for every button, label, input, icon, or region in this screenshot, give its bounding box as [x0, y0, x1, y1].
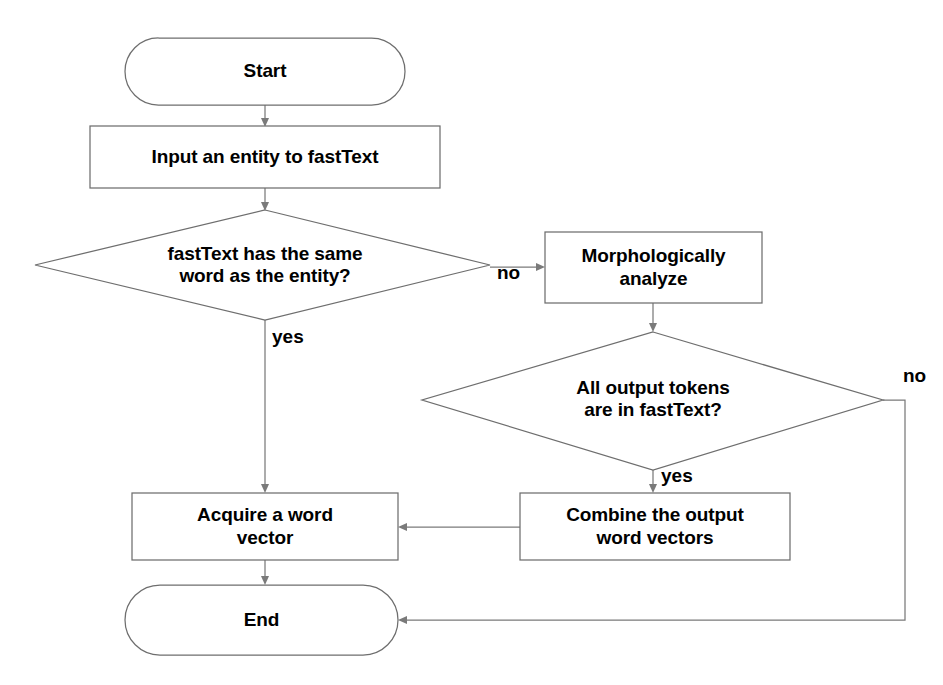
node-morphologically-analyze-shape[interactable]	[545, 232, 762, 303]
edge-acquire-to-end	[261, 560, 269, 585]
edge-label-tokens-yes: yes	[661, 466, 693, 485]
edge-same-word-yes	[261, 320, 269, 493]
flowchart-canvas: Start Input an entity to fastText fastTe…	[0, 0, 943, 685]
edge-input-to-same-word	[261, 188, 269, 211]
edge-start-to-input	[261, 105, 269, 127]
node-combine-vectors-shape[interactable]	[520, 493, 790, 560]
edge-label-same-word-no: no	[497, 263, 520, 282]
node-tokens-decision-shape[interactable]	[422, 332, 883, 470]
edge-tokens-yes	[649, 470, 657, 493]
node-input-entity-shape[interactable]	[90, 126, 440, 188]
node-acquire-vector-shape[interactable]	[132, 493, 398, 560]
edge-combine-to-acquire	[398, 523, 520, 531]
edge-analyze-to-tokens	[649, 303, 657, 332]
node-start-shape[interactable]	[125, 38, 405, 105]
edge-label-same-word-yes: yes	[272, 327, 304, 346]
node-same-word-decision-shape[interactable]	[35, 210, 490, 320]
node-end-shape[interactable]	[125, 585, 398, 655]
flowchart-graphics	[0, 0, 943, 685]
edge-label-tokens-no: no	[903, 366, 926, 385]
